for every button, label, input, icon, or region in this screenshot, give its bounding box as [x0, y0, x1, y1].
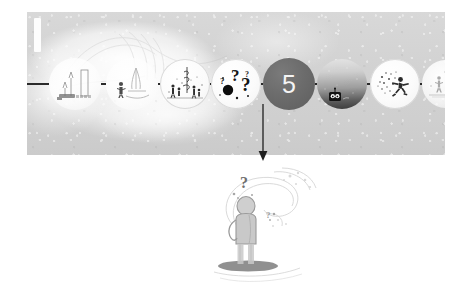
- city-harbor-icon: [49, 58, 101, 110]
- person-sailboat-icon: [106, 58, 158, 110]
- svg-text:?: ?: [245, 70, 249, 79]
- timeline-node-1[interactable]: [49, 58, 101, 110]
- running-person-icon: [370, 59, 420, 109]
- timeline-banner: ? ? ? ? 5: [27, 12, 445, 155]
- timeline-node-5-label: 5: [282, 72, 296, 97]
- timeline-node-8[interactable]: [422, 60, 445, 108]
- robot-face-icon: [317, 59, 367, 109]
- svg-text:?: ?: [231, 66, 240, 85]
- timeline-node-2[interactable]: [106, 58, 158, 110]
- timeline-node-5-active[interactable]: 5: [263, 58, 315, 110]
- svg-text:?: ?: [220, 76, 225, 86]
- timeline-node-3[interactable]: [160, 59, 210, 109]
- screenshot-canvas: ? ? ? ? 5: [0, 0, 469, 292]
- thinking-person-icon: [229, 197, 256, 265]
- thought-question-mark: ?: [240, 174, 248, 191]
- small-question-mark: ?: [266, 210, 271, 220]
- timeline-track: ? ? ? ? 5: [27, 12, 445, 155]
- question-marks-icon: ? ? ? ?: [211, 59, 261, 109]
- figures-tower-icon: [160, 59, 210, 109]
- timeline-node-6[interactable]: [317, 59, 367, 109]
- timeline-node-4[interactable]: ? ? ? ?: [211, 59, 261, 109]
- two-figures-icon: [422, 60, 445, 108]
- detail-illustration: ? ?: [178, 162, 328, 290]
- down-arrow: [256, 104, 270, 162]
- timeline-node-7[interactable]: [370, 59, 420, 109]
- timeline-connector: [27, 83, 49, 85]
